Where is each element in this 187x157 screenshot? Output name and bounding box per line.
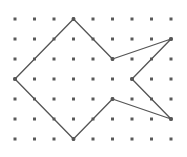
polygon-vertex — [111, 97, 115, 101]
grid-dot — [111, 78, 114, 81]
polygon-vertex — [72, 17, 76, 21]
grid-dot — [33, 78, 36, 81]
grid-dot — [111, 138, 114, 141]
grid-dot — [14, 118, 17, 121]
grid-dot — [72, 78, 75, 81]
grid-dot — [33, 138, 36, 141]
grid-dot — [53, 98, 56, 101]
grid-dot — [131, 18, 134, 21]
polygon-vertex — [72, 137, 76, 141]
grid-dot — [72, 38, 75, 41]
grid-dot — [92, 78, 95, 81]
grid-dot — [33, 118, 36, 121]
grid-dot — [170, 18, 173, 21]
grid-dot — [131, 138, 134, 141]
grid-dot — [92, 98, 95, 101]
grid-dot — [14, 98, 17, 101]
grid-dot — [150, 138, 153, 141]
grid-dot — [72, 118, 75, 121]
polygon-vertex — [169, 37, 173, 41]
polygon-vertex — [111, 57, 115, 61]
grid-dot — [170, 78, 173, 81]
grid-dot — [150, 18, 153, 21]
grid-dots — [14, 18, 173, 141]
grid-dot — [92, 138, 95, 141]
grid-dot — [131, 118, 134, 121]
grid-dot — [14, 58, 17, 61]
polygon-vertex — [130, 77, 134, 81]
polygon-vertex — [13, 77, 17, 81]
grid-dot — [14, 18, 17, 21]
grid-dot — [72, 58, 75, 61]
grid-dot — [131, 38, 134, 41]
dot-grid-diagram — [0, 0, 187, 157]
grid-dot — [33, 38, 36, 41]
grid-dot — [170, 98, 173, 101]
grid-dot — [131, 98, 134, 101]
grid-dot — [111, 118, 114, 121]
grid-dot — [53, 18, 56, 21]
grid-dot — [53, 78, 56, 81]
grid-dot — [150, 78, 153, 81]
grid-dot — [170, 138, 173, 141]
grid-dot — [14, 138, 17, 141]
grid-dot — [53, 138, 56, 141]
grid-dot — [92, 18, 95, 21]
grid-dot — [150, 38, 153, 41]
grid-dot — [72, 98, 75, 101]
grid-dot — [92, 58, 95, 61]
grid-dot — [150, 118, 153, 121]
grid-dot — [170, 58, 173, 61]
grid-dot — [111, 18, 114, 21]
grid-dot — [33, 18, 36, 21]
grid-dot — [131, 58, 134, 61]
grid-dot — [14, 38, 17, 41]
grid-dot — [53, 58, 56, 61]
grid-dot — [111, 38, 114, 41]
polygon-vertex — [169, 117, 173, 121]
